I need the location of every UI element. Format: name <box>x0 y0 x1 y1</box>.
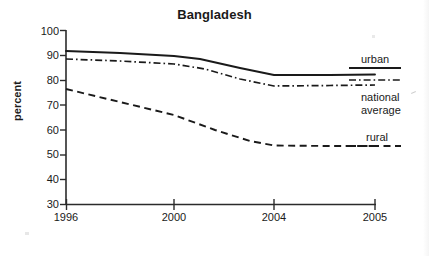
scan-speck-artifact-2 <box>25 232 29 235</box>
series-line-urban <box>66 51 375 75</box>
y-axis-ticks <box>60 31 66 205</box>
scan-speck-artifact-3 <box>372 35 375 38</box>
chart-plot-area <box>0 0 429 256</box>
scan-edge-artifact <box>423 0 429 256</box>
legend-swatches <box>349 68 401 146</box>
series-line-rural <box>66 89 375 146</box>
axis-lines <box>66 30 376 205</box>
chart-screenshot: Bangladesh percent 100 90 80 70 60 50 40… <box>0 0 429 256</box>
